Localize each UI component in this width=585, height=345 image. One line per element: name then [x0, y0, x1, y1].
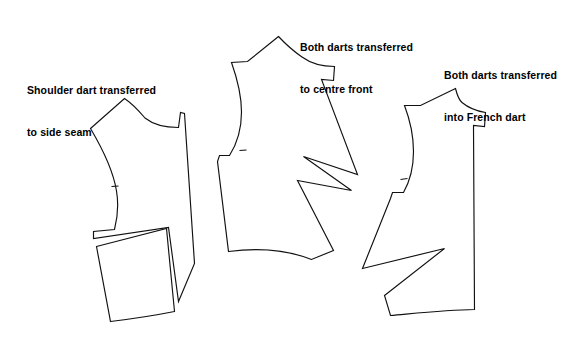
caption-shoulder-dart: Shoulder dart transferred to side seam: [27, 55, 156, 167]
armhole-notch-icon: [112, 186, 119, 187]
caption-french-dart-line1: Both darts transferred: [444, 68, 557, 82]
caption-centre-front: Both darts transferred to centre front: [300, 12, 413, 124]
caption-centre-front-line2: to centre front: [300, 82, 413, 96]
caption-french-dart: Both darts transferred into French dart: [444, 40, 557, 152]
pattern-diagram: Shoulder dart transferred to side seam B…: [0, 0, 585, 345]
caption-shoulder-dart-line2: to side seam: [27, 125, 156, 139]
armhole-notch-icon: [240, 150, 247, 151]
caption-centre-front-line1: Both darts transferred: [300, 40, 413, 54]
caption-shoulder-dart-line1: Shoulder dart transferred: [27, 83, 156, 97]
caption-french-dart-line2: into French dart: [444, 110, 557, 124]
